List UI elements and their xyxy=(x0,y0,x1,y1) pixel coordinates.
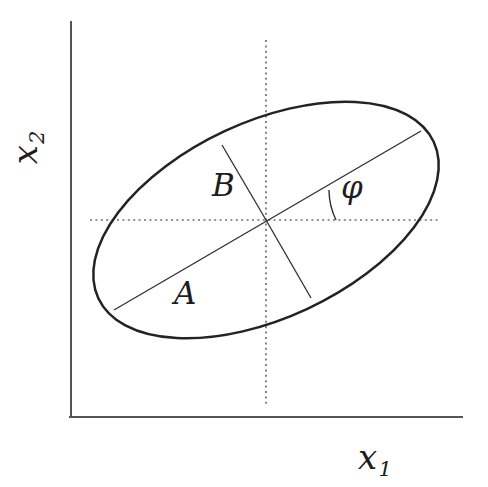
y-axis-label: x2 xyxy=(8,130,47,164)
x-axis-label-text: x xyxy=(358,437,377,477)
angle-label: φ xyxy=(341,172,363,203)
x-axis-label: x1 xyxy=(358,440,392,479)
minor-axis-line-lower xyxy=(266,220,311,298)
ellipse-figure: x2 x1 A B φ xyxy=(0,0,488,487)
x-axis-label-subscript: 1 xyxy=(377,456,392,481)
major-axis-line xyxy=(114,131,421,310)
minor-axis-label: B xyxy=(212,170,235,201)
figure-canvas xyxy=(0,0,488,487)
y-axis-label-subscript: 2 xyxy=(23,130,48,145)
y-axis-label-text: x xyxy=(5,145,45,164)
major-axis-label: A xyxy=(174,278,196,309)
angle-arc xyxy=(329,190,336,220)
